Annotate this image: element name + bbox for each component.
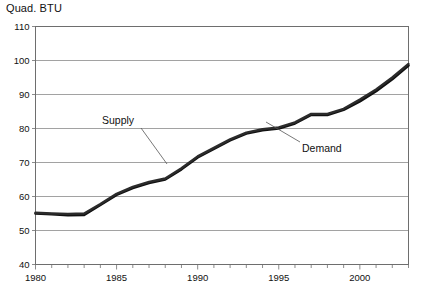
x-tick-label: 1985: [106, 272, 127, 283]
figure-caption: [0, 292, 425, 300]
x-tick-label: 1995: [268, 272, 289, 283]
y-tick-label: 70: [19, 157, 30, 168]
y-tick-label: 110: [14, 21, 29, 32]
series-line-supply: [36, 66, 409, 216]
chart-figure: Quad. BTU 405060708090100110 19801985199…: [0, 0, 425, 300]
x-tick-label: 1980: [25, 272, 46, 283]
x-ticks-group: [36, 265, 409, 270]
supply-label: Supply: [102, 114, 135, 126]
y-tick-label: 100: [14, 55, 30, 66]
y-tick-label: 40: [19, 259, 30, 270]
y-tick-label: 50: [19, 225, 30, 236]
series-line-demand: [36, 64, 409, 214]
supply-annotation: Supply: [102, 114, 167, 164]
y-tick-label: 80: [19, 123, 30, 134]
supply-leader-line: [141, 128, 167, 164]
x-tick-label: 1990: [187, 272, 208, 283]
x-tick-labels-group: 19801985199019952000: [25, 272, 370, 283]
y-tick-label: 90: [19, 89, 30, 100]
y-tick-labels-group: 405060708090100110: [14, 21, 30, 270]
data-series-group: [36, 64, 409, 215]
line-chart: 405060708090100110 19801985199019952000 …: [0, 0, 425, 300]
x-tick-label: 2000: [349, 272, 370, 283]
y-tick-label: 60: [19, 191, 30, 202]
demand-label: Demand: [302, 142, 342, 154]
